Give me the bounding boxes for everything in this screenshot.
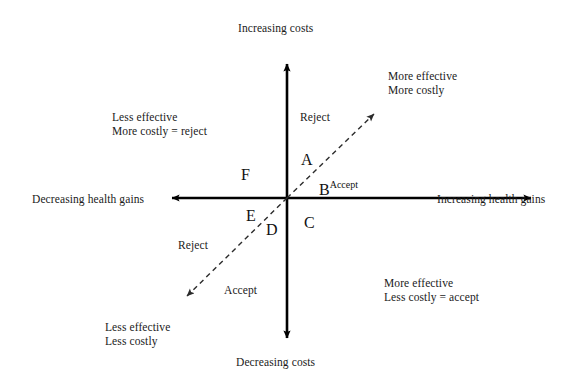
- threshold-line: [187, 114, 374, 296]
- quadrant-note-bottom-right: More effective Less costly = accept: [384, 276, 479, 305]
- quadrant-note-top-left: Less effective More costly = reject: [112, 110, 207, 139]
- point-label-B-letter: B: [319, 181, 330, 198]
- quadrant-note-bottom-left-line2: Less costly: [105, 334, 170, 348]
- point-label-B-superscript: Accept: [330, 179, 358, 190]
- quadrant-note-bottom-right-line1: More effective: [384, 276, 479, 290]
- quadrant-note-bottom-left-line1: Less effective: [105, 320, 170, 334]
- quadrant-note-top-right-line1: More effective: [388, 69, 457, 83]
- quadrant-note-top-right: More effective More costly: [388, 69, 457, 98]
- point-label-D: D: [266, 221, 278, 239]
- threshold-label-reject-lower: Reject: [178, 238, 208, 252]
- axis-label-decreasing-costs: Decreasing costs: [236, 355, 315, 369]
- axis-label-increasing-costs: Increasing costs: [238, 21, 313, 35]
- threshold-label-accept-lower: Accept: [224, 283, 257, 297]
- point-label-B: BAccept: [319, 180, 358, 199]
- point-label-A: A: [301, 151, 313, 169]
- axis-label-decreasing-health-gains: Decreasing health gains: [32, 192, 144, 206]
- quadrant-note-top-left-line2: More costly = reject: [112, 124, 207, 138]
- quadrant-note-bottom-left: Less effective Less costly: [105, 320, 170, 349]
- point-label-C: C: [304, 214, 315, 232]
- threshold-label-reject-upper: Reject: [300, 110, 330, 124]
- quadrant-note-bottom-right-line2: Less costly = accept: [384, 290, 479, 304]
- axis-label-increasing-health-gains: Increasing health gains: [437, 192, 545, 206]
- point-label-E: E: [246, 207, 256, 225]
- quadrant-note-top-right-line2: More costly: [388, 83, 457, 97]
- point-label-F: F: [241, 166, 250, 184]
- quadrant-note-top-left-line1: Less effective: [112, 110, 207, 124]
